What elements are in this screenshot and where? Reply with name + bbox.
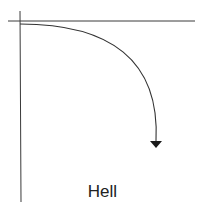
descending-curve-arrow	[20, 24, 156, 141]
arrowhead-down-icon	[150, 141, 162, 148]
diagram-canvas: Hell	[0, 0, 201, 213]
hell-label: Hell	[0, 182, 201, 202]
vertical-axis-line	[20, 11, 21, 202]
